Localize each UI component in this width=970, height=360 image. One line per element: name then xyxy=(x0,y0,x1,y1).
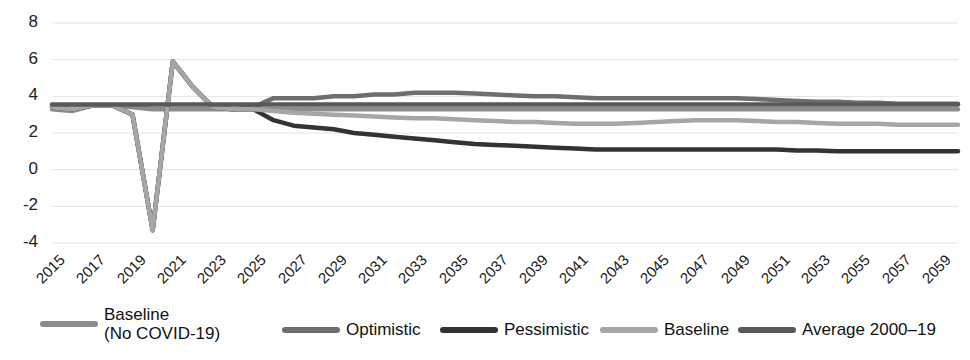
legend-swatch xyxy=(440,327,498,333)
legend-label: Optimistic xyxy=(346,320,421,339)
legend-label: Average 2000–19 xyxy=(802,320,936,339)
legend-swatch xyxy=(40,321,98,327)
legend-item[interactable]: Baseline (No COVID-19) xyxy=(40,304,220,344)
legend-swatch xyxy=(600,327,658,333)
series-lines xyxy=(52,62,958,231)
legend-label: Baseline xyxy=(664,320,729,339)
gridlines xyxy=(52,23,958,243)
chart-legend: Baseline (No COVID-19)OptimisticPessimis… xyxy=(0,296,970,360)
series-line-pessimistic xyxy=(52,62,958,231)
legend-item[interactable]: Pessimistic xyxy=(440,310,589,350)
legend-label: Pessimistic xyxy=(504,320,589,339)
chart-container: 86420-2-4 201520172019202120232025202720… xyxy=(0,0,970,360)
legend-item[interactable]: Optimistic xyxy=(282,310,421,350)
legend-item[interactable]: Baseline xyxy=(600,310,729,350)
legend-swatch xyxy=(282,327,340,333)
legend-label: Baseline (No COVID-19) xyxy=(104,305,220,343)
legend-swatch xyxy=(738,327,796,333)
legend-item[interactable]: Average 2000–19 xyxy=(738,310,936,350)
